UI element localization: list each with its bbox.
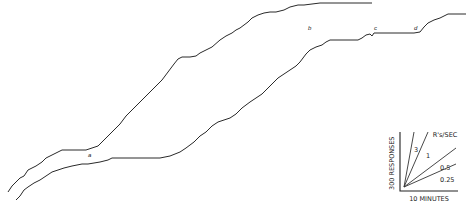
lower-cumulative-record	[16, 14, 466, 200]
key-y-label: 300 RESPONSES	[388, 137, 396, 190]
key-rate-label: 1	[426, 152, 430, 160]
cumulative-record-figure: abcd 310.50.25 R's/SEC 300 RESPONSES 10 …	[0, 0, 466, 209]
record-segment-labels: abcd	[88, 25, 418, 158]
response-rate-key: 310.50.25 R's/SEC 300 RESPONSES 10 MINUT…	[388, 131, 458, 203]
record-label-b: b	[308, 25, 312, 31]
key-rate-line	[404, 132, 428, 187]
key-rate-label: 3	[414, 146, 418, 154]
record-label-a: a	[88, 152, 92, 158]
key-rate-title: R's/SEC	[433, 131, 458, 139]
record-label-d: d	[414, 25, 418, 31]
key-x-label: 10 MINUTES	[409, 195, 449, 203]
key-rate-label: 0.25	[440, 176, 454, 184]
key-rate-line	[404, 132, 414, 187]
upper-cumulative-record	[8, 3, 372, 192]
record-label-c: c	[374, 25, 377, 31]
